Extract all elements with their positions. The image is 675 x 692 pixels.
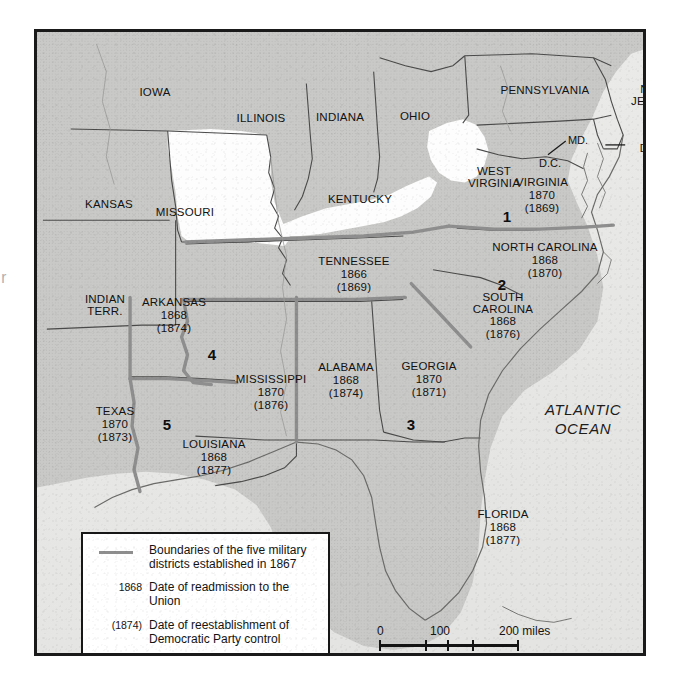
military-district-number-4: 4 [208,346,216,363]
legend-text-democratic-control-date: Date of reestablishment of Democratic Pa… [149,618,289,646]
state-label-pennsylvania: PENNSYLVANIA [501,84,590,97]
page-bleed-text: r [1,268,6,288]
state-label-south-carolina: SOUTH CAROLINA 1868 (1876) [473,291,533,341]
legend-row-democratic-control-date: (1874) Date of reestablishment of Democr… [90,618,319,646]
legend-key-readmission-date: 1868 [90,580,149,593]
state-label-ohio: OHIO [400,110,430,123]
district-boundary-line-swatch [90,543,149,554]
map-legend: Boundaries of the five military district… [81,532,330,656]
map-scale-bar: 0 100 200 miles 0 100 200 kilometers [377,624,565,656]
state-label-alabama: ALABAMA 1868 (1874) [318,361,374,400]
legend-text-district-boundary: Boundaries of the five military district… [149,543,306,571]
military-district-number-1: 1 [503,208,511,225]
state-label-texas: TEXAS 1870 (1873) [96,405,135,444]
state-label-indian-territory: INDIAN TERR. [85,293,125,317]
military-district-number-2: 2 [498,276,506,293]
map-frame: IOWA ILLINOIS INDIANA OHIO PENNSYLVANIA … [34,29,646,656]
state-label-florida: FLORIDA 1868 (1877) [477,508,528,547]
state-label-kansas: KANSAS [85,198,133,211]
state-label-maryland: MD. [568,134,588,146]
military-district-number-5: 5 [163,416,171,433]
state-label-kentucky: KENTUCKY [328,193,392,206]
state-label-north-carolina: NORTH CAROLINA 1868 (1870) [492,241,597,280]
state-label-louisiana: LOUISIANA 1868 (1877) [182,438,245,477]
state-label-tennessee: TENNESSEE 1866 (1869) [318,255,389,294]
legend-text-readmission-date: Date of readmission to the Union [149,580,319,608]
state-label-mississippi: MISSISSIPPI 1870 (1876) [236,373,307,412]
state-label-indiana: INDIANA [316,111,364,124]
state-label-new-jersey: NEW JERSEY [631,83,646,107]
military-district-number-3: 3 [407,416,415,433]
state-label-georgia: GEORGIA 1870 (1871) [401,360,456,399]
ocean-label: ATLANTIC OCEAN [545,401,621,439]
scale-bar-graphic [377,640,565,651]
state-label-arkansas: ARKANSAS 1868 (1874) [142,296,206,335]
state-label-virginia: VIRGINIA 1870 (1869) [516,176,568,215]
state-label-iowa: IOWA [139,86,170,99]
state-label-missouri: MISSOURI [156,206,214,219]
legend-row-district-boundary: Boundaries of the five military district… [90,543,319,571]
legend-key-democratic-control-date: (1874) [90,618,149,631]
state-label-delaware: DEL. [640,142,646,154]
state-label-district-of-columbia: D.C. [539,157,561,169]
scale-miles-ticks: 0 100 200 miles [377,624,565,639]
scale-kilometers-ticks: 0 100 200 kilometers [377,652,565,656]
state-label-west-virginia: WEST VIRGINIA [468,165,520,189]
legend-row-readmission-date: 1868 Date of readmission to the Union [90,580,319,608]
state-label-illinois: ILLINOIS [237,112,286,125]
